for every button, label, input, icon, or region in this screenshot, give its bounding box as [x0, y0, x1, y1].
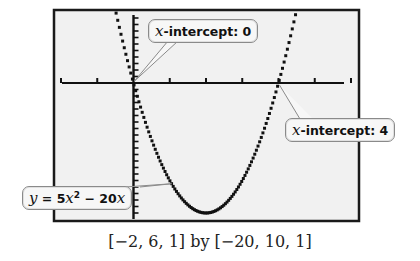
callout-text: -intercept: 4 — [300, 123, 388, 138]
callout-equation: y = 5x2 − 20x — [22, 186, 132, 210]
eq-part: = 5 — [37, 191, 65, 206]
var-x: x — [65, 189, 73, 207]
var-x: x — [117, 189, 125, 207]
callout-x-intercept-0: x-intercept: 0 — [148, 19, 258, 43]
callout-text: -intercept: 0 — [163, 24, 251, 39]
window-caption: [−2, 6, 1] by [−20, 10, 1] — [0, 232, 420, 251]
eq-part: − 20 — [80, 191, 117, 206]
callout-x-intercept-4: x-intercept: 4 — [285, 118, 395, 142]
